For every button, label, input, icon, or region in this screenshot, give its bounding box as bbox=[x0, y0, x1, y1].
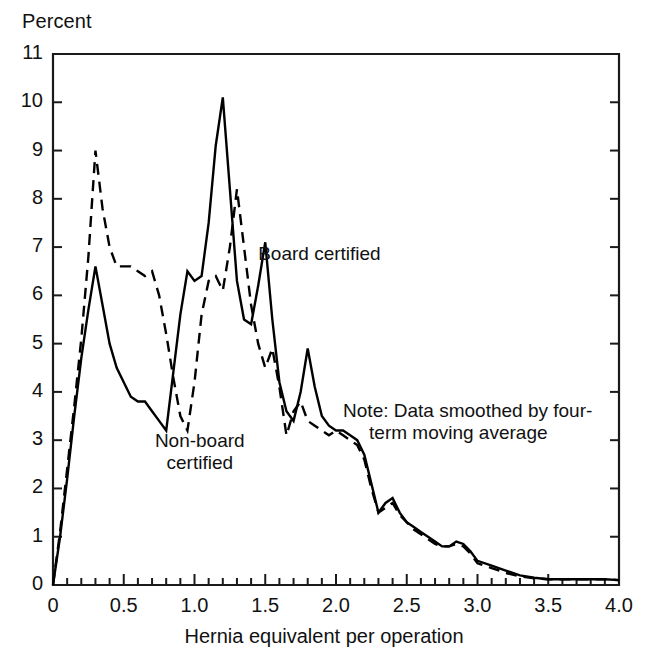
series-label-non-board-line2: certified bbox=[155, 452, 245, 474]
chart-figure: Percent 01234567891011 00.51.01.52.02.53… bbox=[0, 0, 648, 664]
data-series bbox=[53, 97, 619, 585]
y-tick-label: 7 bbox=[9, 234, 43, 257]
y-tick-label: 1 bbox=[9, 524, 43, 547]
y-tick-label: 5 bbox=[9, 331, 43, 354]
y-tick-label: 9 bbox=[9, 138, 43, 161]
y-tick-label: 6 bbox=[9, 282, 43, 305]
series-label-non-board-certified: Non-board certified bbox=[155, 430, 245, 474]
series-label-board-text: Board certified bbox=[258, 243, 381, 264]
axis-frame bbox=[53, 54, 619, 585]
x-tick-label: 2.5 bbox=[372, 594, 442, 617]
axis-ticks bbox=[53, 102, 619, 585]
x-tick-label: 1.5 bbox=[230, 594, 300, 617]
chart-note-line2: term moving average bbox=[343, 422, 592, 445]
x-tick-label: 0 bbox=[18, 594, 88, 617]
series-line-board-certified bbox=[53, 97, 619, 585]
chart-note-line1: Note: Data smoothed by four- bbox=[343, 400, 592, 423]
x-tick-label: 2.0 bbox=[301, 594, 371, 617]
y-tick-label: 3 bbox=[9, 427, 43, 450]
x-axis-title: Hernia equivalent per operation bbox=[0, 625, 648, 648]
y-tick-label: 8 bbox=[9, 186, 43, 209]
y-tick-label: 11 bbox=[9, 41, 43, 64]
chart-plot-area bbox=[0, 0, 648, 664]
chart-note: Note: Data smoothed by four- term moving… bbox=[343, 400, 592, 446]
x-tick-label: 4.0 bbox=[584, 594, 648, 617]
y-tick-label: 4 bbox=[9, 379, 43, 402]
y-tick-label: 10 bbox=[9, 89, 43, 112]
series-label-board-certified: Board certified bbox=[258, 243, 381, 265]
series-label-non-board-line1: Non-board bbox=[155, 430, 245, 452]
x-tick-label: 3.5 bbox=[513, 594, 583, 617]
x-tick-label: 0.5 bbox=[89, 594, 159, 617]
y-tick-label: 2 bbox=[9, 475, 43, 498]
series-line-non-board-certified bbox=[53, 151, 619, 585]
y-tick-label: 0 bbox=[9, 572, 43, 595]
x-tick-label: 3.0 bbox=[443, 594, 513, 617]
x-tick-label: 1.0 bbox=[160, 594, 230, 617]
